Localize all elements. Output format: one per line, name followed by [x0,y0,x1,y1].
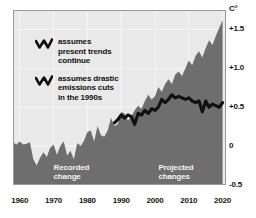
legend-label-emissions-cuts: assumes drastic emissions cuts in the 19… [58,74,118,103]
y-tick-label: +1.5 [229,24,244,33]
plot-area: Recorded change Projected changes assume… [13,10,226,185]
legend-item-present-trends: assumes present trends continue [35,37,118,66]
chart-legend: assumes present trends continue assumes … [35,37,118,110]
zigzag-line-icon [35,75,53,86]
y-tick-label: -0.5 [229,180,242,189]
zigzag-line-icon [35,38,53,49]
y-tick-label: +0.5 [229,102,244,111]
y-axis-unit-label: C° [229,4,238,13]
x-tick-label: 2000 [147,196,164,205]
x-tick-label: 2010 [180,196,197,205]
annotation-projected-changes: Projected changes [158,163,193,182]
y-tick-label: 0 [229,141,233,150]
x-tick-label: 1960 [11,196,28,205]
annotation-recorded-change: Recorded change [54,163,90,182]
x-tick-label: 1980 [79,196,96,205]
legend-item-emissions-cuts: assumes drastic emissions cuts in the 19… [35,74,118,103]
x-tick-label: 2020 [214,196,231,205]
legend-label-present-trends: assumes present trends continue [58,37,111,66]
chart-figure: Recorded change Projected changes assume… [0,0,256,218]
y-tick-label: +1.0 [229,63,244,72]
x-tick-label: 1970 [45,196,62,205]
x-tick-label: 1990 [113,196,130,205]
